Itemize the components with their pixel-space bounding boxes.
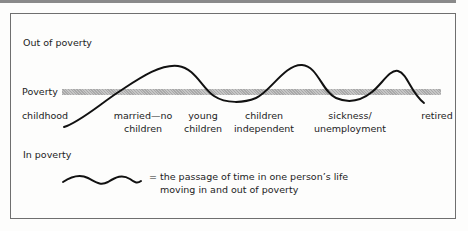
legend-wave-icon: [0, 0, 468, 231]
legend-description-line2: moving in and out of poverty: [160, 184, 298, 196]
legend-description-line1: the passage of time in one person’s life: [160, 171, 348, 183]
legend-equals-sign: =: [149, 171, 157, 183]
